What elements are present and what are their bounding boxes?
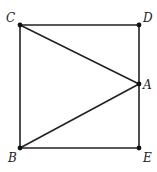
geometry-diagram: C D A B E xyxy=(0,0,157,172)
label-D: D xyxy=(142,11,153,25)
point-D xyxy=(137,23,142,28)
segment-BA xyxy=(20,84,139,148)
segments xyxy=(20,25,139,148)
segment-CA xyxy=(20,25,139,84)
points xyxy=(18,23,142,151)
point-E xyxy=(137,146,142,151)
label-A: A xyxy=(142,78,152,92)
label-C: C xyxy=(6,11,15,25)
label-E: E xyxy=(142,151,152,165)
label-B: B xyxy=(7,151,17,165)
point-A xyxy=(137,82,142,87)
point-C xyxy=(18,23,23,28)
point-B xyxy=(18,146,23,151)
